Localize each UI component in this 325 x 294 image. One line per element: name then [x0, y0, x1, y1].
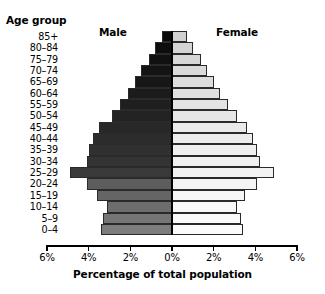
x-axis-tick-label: 6%: [39, 252, 54, 263]
x-axis-tick: [88, 245, 89, 251]
y-axis-title: Age group: [6, 14, 66, 26]
bar-male: [101, 224, 172, 235]
bar-male: [97, 190, 172, 201]
bar-female: [172, 76, 214, 87]
plot-area: [47, 31, 297, 235]
bar-male: [120, 99, 172, 110]
x-axis-tick: [46, 245, 47, 251]
bar-male: [87, 178, 172, 189]
bar-male: [89, 144, 172, 155]
population-pyramid-chart: Age group Male Female 85+80–8475–7970–74…: [0, 0, 325, 294]
bar-female: [172, 99, 228, 110]
x-axis-tick-label: 0%: [164, 252, 179, 263]
bar-male: [103, 213, 172, 224]
zero-axis-line: [171, 31, 172, 235]
bar-male: [93, 133, 172, 144]
bar-female: [172, 42, 193, 53]
x-axis-tick-label: 4%: [248, 252, 263, 263]
x-axis-tick-label: 2%: [206, 252, 221, 263]
bar-female: [172, 224, 243, 235]
x-axis-tick: [213, 245, 214, 251]
bar-male: [135, 76, 173, 87]
bar-female: [172, 122, 247, 133]
bar-female: [172, 65, 207, 76]
bar-female: [172, 31, 187, 42]
bar-female: [172, 178, 257, 189]
bar-female: [172, 88, 220, 99]
bar-male: [149, 54, 172, 65]
x-axis-tick: [130, 245, 131, 251]
bar-male: [99, 122, 172, 133]
bar-female: [172, 213, 241, 224]
bar-female: [172, 144, 257, 155]
bar-female: [172, 201, 237, 212]
bar-female: [172, 110, 237, 121]
x-axis-tick-label: 4%: [81, 252, 96, 263]
bar-male: [155, 42, 172, 53]
bar-female: [172, 167, 274, 178]
bar-male: [128, 88, 172, 99]
bar-female: [172, 156, 260, 167]
bar-female: [172, 54, 201, 65]
x-axis-tick-label: 2%: [123, 252, 138, 263]
bar-male: [112, 110, 172, 121]
bar-female: [172, 133, 253, 144]
bar-male: [107, 201, 172, 212]
bar-male: [141, 65, 172, 76]
x-axis-title: Percentage of total population: [0, 268, 325, 280]
bar-male: [87, 156, 172, 167]
bar-male: [70, 167, 172, 178]
bar-female: [172, 190, 245, 201]
x-axis-tick-label: 6%: [289, 252, 304, 263]
x-axis-tick: [171, 245, 172, 251]
x-axis-tick: [255, 245, 256, 251]
x-axis-tick: [296, 245, 297, 251]
